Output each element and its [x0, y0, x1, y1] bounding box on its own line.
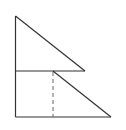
lower-figure	[16, 71, 112, 117]
hypotenuse-upper	[16, 16, 86, 71]
hypotenuse-lower	[53, 71, 111, 117]
upper-triangle	[16, 16, 86, 71]
geometry-diagram	[0, 0, 126, 130]
